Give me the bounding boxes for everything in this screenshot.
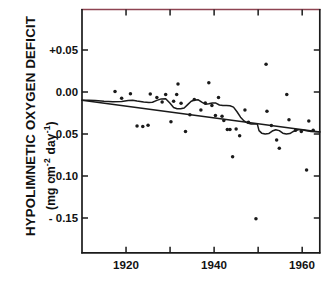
data-point xyxy=(175,93,179,97)
linear-regression-line xyxy=(82,100,320,132)
data-point xyxy=(146,123,150,127)
data-point xyxy=(204,101,208,105)
data-point xyxy=(220,115,224,119)
axis-ticks xyxy=(82,10,320,253)
data-point xyxy=(307,119,311,123)
data-point xyxy=(264,63,268,67)
plot-area xyxy=(0,0,327,284)
data-point xyxy=(135,124,139,128)
plot-frame xyxy=(81,9,320,254)
data-point xyxy=(278,147,282,151)
data-point xyxy=(160,100,164,104)
chart-figure: HYPOLIMNETIC OXYGEN DEFICIT (mg cm-2 day… xyxy=(0,0,327,284)
data-point xyxy=(193,98,197,102)
data-point xyxy=(155,96,159,100)
data-points-group xyxy=(113,63,315,221)
data-point xyxy=(265,110,269,114)
data-point xyxy=(188,113,192,117)
data-point xyxy=(294,128,298,132)
data-point xyxy=(113,90,117,94)
data-point xyxy=(300,130,304,134)
data-point xyxy=(254,217,258,221)
data-point xyxy=(214,114,218,118)
data-point xyxy=(141,125,145,129)
data-point xyxy=(149,92,153,96)
data-point xyxy=(285,93,289,97)
data-point xyxy=(172,99,176,103)
data-point xyxy=(217,96,221,100)
data-point xyxy=(243,108,247,112)
data-point xyxy=(179,102,183,106)
data-point xyxy=(228,128,232,132)
data-point xyxy=(305,168,309,172)
data-point xyxy=(129,92,133,96)
data-point xyxy=(287,118,291,122)
data-point xyxy=(199,108,203,112)
data-point xyxy=(311,128,315,132)
data-point xyxy=(120,97,124,101)
data-point xyxy=(207,81,211,85)
data-point xyxy=(184,130,188,134)
data-point xyxy=(222,119,226,123)
data-point xyxy=(169,120,173,124)
data-point xyxy=(176,82,180,86)
data-point xyxy=(231,155,235,159)
data-point xyxy=(275,138,279,142)
data-point xyxy=(247,120,251,124)
data-point xyxy=(164,93,168,97)
data-point xyxy=(234,127,238,131)
data-point xyxy=(210,104,214,108)
data-point xyxy=(270,124,274,128)
data-point xyxy=(238,134,242,138)
